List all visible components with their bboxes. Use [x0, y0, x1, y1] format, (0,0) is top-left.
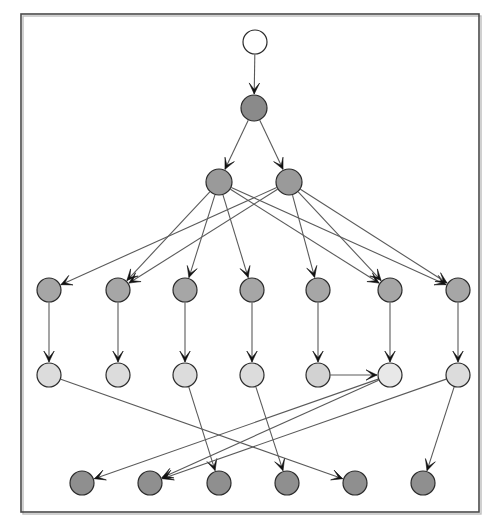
graph-node[interactable]	[207, 471, 231, 495]
graph-node[interactable]	[37, 363, 61, 387]
graph-node[interactable]	[70, 471, 94, 495]
edge-line	[162, 379, 446, 479]
graph-node[interactable]	[411, 471, 435, 495]
graph-node[interactable]	[138, 471, 162, 495]
graph-edge	[129, 189, 278, 283]
graph-node[interactable]	[241, 95, 267, 121]
edge-line	[61, 188, 277, 285]
edge-line	[231, 188, 446, 285]
graph-node[interactable]	[378, 278, 402, 302]
graph-node[interactable]	[275, 471, 299, 495]
graph-node[interactable]	[37, 278, 61, 302]
graph-node[interactable]	[306, 363, 330, 387]
edge-line	[94, 379, 378, 479]
graph-edge	[187, 195, 215, 278]
graph-node[interactable]	[343, 471, 367, 495]
graph-edge	[331, 370, 378, 380]
graph-edge	[94, 379, 378, 480]
graph-edge	[300, 189, 447, 283]
edge-arrowhead	[435, 273, 447, 283]
diagram-frame-border	[21, 14, 479, 512]
edge-line	[225, 120, 248, 169]
edge-line	[300, 189, 447, 283]
graph-node[interactable]	[446, 363, 470, 387]
diagram-canvas	[0, 0, 500, 532]
graph-node[interactable]	[206, 169, 232, 195]
graph-node[interactable]	[240, 278, 264, 302]
edge-line	[189, 387, 215, 471]
graph-edge	[44, 303, 54, 363]
graph-edge	[225, 120, 248, 169]
edge-line	[260, 120, 283, 169]
graph-edge	[230, 189, 379, 283]
graph-edge	[223, 195, 250, 278]
graph-node[interactable]	[276, 169, 302, 195]
edge-line	[254, 54, 255, 94]
edge-line	[129, 189, 278, 283]
graph-node[interactable]	[240, 363, 264, 387]
edge-line	[189, 195, 215, 278]
diagram-frame-shadow	[23, 16, 481, 514]
node-layer	[37, 30, 470, 495]
graph-edge	[249, 54, 259, 94]
edge-line	[427, 387, 454, 471]
graph-node[interactable]	[306, 278, 330, 302]
graph-edge	[313, 303, 323, 363]
graph-edge	[385, 303, 395, 363]
graph-edge	[162, 380, 379, 478]
edge-line	[230, 189, 379, 283]
graph-node[interactable]	[173, 363, 197, 387]
graph-node[interactable]	[243, 30, 267, 54]
edge-line	[293, 195, 315, 277]
graph-edge	[453, 303, 463, 363]
graph-edge	[247, 303, 257, 363]
graph-node[interactable]	[106, 278, 130, 302]
graph-node[interactable]	[173, 278, 197, 302]
edge-line	[223, 195, 248, 278]
graph-edge	[298, 192, 381, 281]
graph-edge	[260, 120, 283, 169]
edge-line	[298, 192, 381, 281]
graph-edge	[61, 188, 277, 285]
graph-edge	[113, 303, 123, 363]
graph-svg	[0, 0, 500, 532]
graph-node[interactable]	[378, 363, 402, 387]
edge-line	[162, 380, 379, 478]
graph-node[interactable]	[106, 363, 130, 387]
graph-edge	[231, 188, 446, 285]
graph-edge	[180, 303, 190, 363]
graph-node[interactable]	[446, 278, 470, 302]
graph-edge	[425, 387, 454, 471]
diagram-frame	[21, 14, 481, 514]
